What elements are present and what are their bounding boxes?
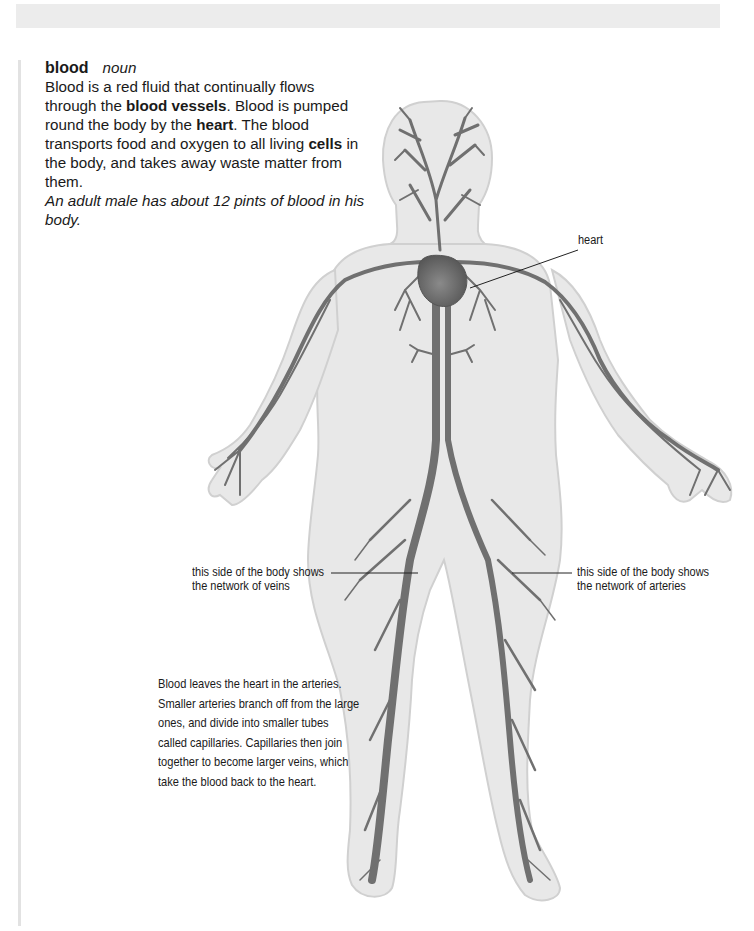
label-line: the network of veins xyxy=(192,579,324,593)
label-line: the network of arteries xyxy=(577,579,709,593)
caption-line: ones, and divide into smaller tubes xyxy=(158,714,369,734)
circulatory-system-illustration xyxy=(0,0,754,931)
label-line: this side of the body shows xyxy=(577,565,709,579)
illustration-caption: Blood leaves the heart in the arteries. … xyxy=(158,675,369,793)
label-arteries: this side of the body shows the network … xyxy=(577,565,709,593)
label-heart: heart xyxy=(578,233,603,247)
label-line: this side of the body shows xyxy=(192,565,324,579)
caption-line: together to become larger veins, which xyxy=(158,753,369,773)
caption-line: called capillaries. Capillaries then joi… xyxy=(158,734,369,754)
caption-line: Smaller arteries branch off from the lar… xyxy=(158,695,369,715)
label-veins: this side of the body shows the network … xyxy=(192,565,324,593)
caption-line: Blood leaves the heart in the arteries. xyxy=(158,675,369,695)
caption-line: take the blood back to the heart. xyxy=(158,773,369,793)
